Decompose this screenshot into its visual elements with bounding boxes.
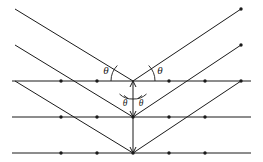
atom-dot xyxy=(95,79,98,82)
atom-dot xyxy=(167,151,170,154)
theta-label-reflected-lower: θ xyxy=(139,98,144,108)
atom-dot xyxy=(239,79,242,82)
atom-dot xyxy=(95,151,98,154)
ray-endpoint-dot xyxy=(239,43,242,46)
atom-dot xyxy=(59,115,62,118)
bragg-diffraction-diagram: θ θ θ θ xyxy=(0,0,263,162)
atom-dot xyxy=(95,115,98,118)
atom-dot xyxy=(131,151,134,154)
atom-dot xyxy=(203,151,206,154)
theta-label-incident-lower: θ xyxy=(123,98,128,108)
atom-dot xyxy=(167,115,170,118)
atom-dot xyxy=(167,79,170,82)
theta-label-reflected-upper: θ xyxy=(157,64,163,76)
atom-dot xyxy=(203,79,206,82)
incident-ray-top-plane xyxy=(15,9,133,81)
angle-arc-reflected-top xyxy=(149,66,155,82)
angle-arcs-group-top xyxy=(111,66,155,82)
atom-dot xyxy=(131,115,134,118)
diagram-canvas: θ θ θ θ xyxy=(0,0,263,162)
atom-dot xyxy=(203,115,206,118)
atom-dot xyxy=(59,151,62,154)
atom-dot xyxy=(59,79,62,82)
reflected-ray-top-plane xyxy=(133,9,241,81)
ray-endpoint-dot xyxy=(239,7,242,10)
theta-label-incident-upper: θ xyxy=(103,64,109,76)
